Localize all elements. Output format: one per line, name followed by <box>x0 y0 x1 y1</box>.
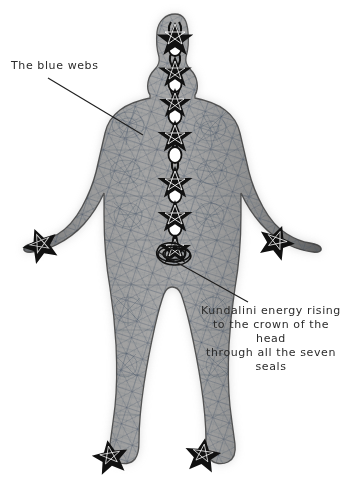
annotation-blue-webs: The blue webs <box>11 59 99 73</box>
annotation-kundalini: Kundalini energy rising to the crown of … <box>196 304 346 374</box>
illustration-page: The blue webs Kundalini energy rising to… <box>0 0 351 493</box>
kundalini-body-figure <box>0 0 351 493</box>
